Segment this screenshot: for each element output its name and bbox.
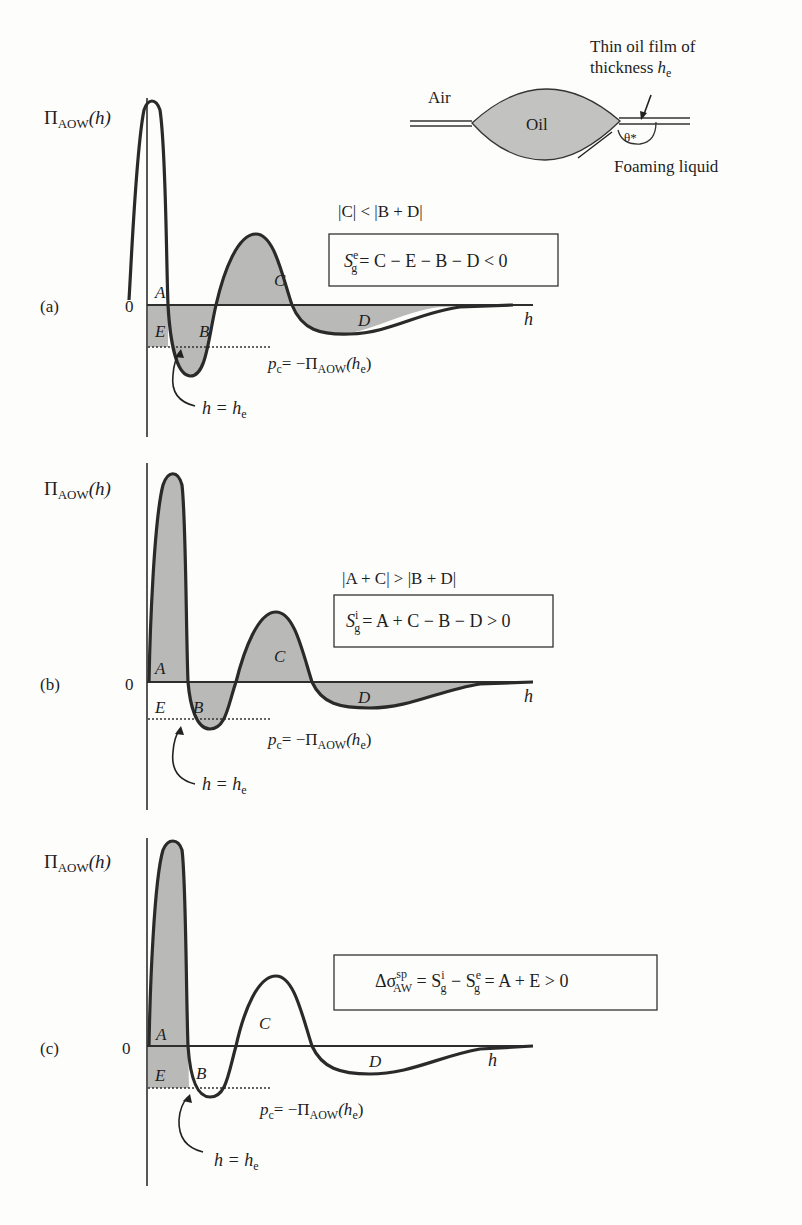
condition-label: |A + C| > |B + D|: [342, 569, 456, 588]
zero-label: 0: [125, 297, 134, 316]
pc-label: pc= −ΠAOW(he): [259, 1100, 363, 1122]
region-D-fill: [312, 682, 533, 708]
pc-label: pc= −ΠAOW(he): [267, 354, 371, 376]
angle-label: θ*: [624, 130, 637, 145]
formula: ΔσspAW = Sig − Seg = A + E > 0: [375, 967, 568, 995]
panel-label: (c): [40, 1039, 59, 1058]
panel-a: (a) 0 ΠAOW(h) h A E B C D |C| < |B + D| …: [40, 98, 558, 437]
panel-label: (a): [40, 297, 59, 316]
background-bleed-text: [0, 20, 802, 21]
oil-lens-inset: Air Oil Thin oil film of thickness he θ*…: [410, 37, 719, 176]
he-label: h = he: [214, 1150, 258, 1173]
region-D-fill: [292, 305, 520, 334]
disjoining-pressure-figure: Air Oil Thin oil film of thickness he θ*…: [0, 0, 802, 1225]
panel-label: (b): [40, 675, 60, 694]
foaming-liquid-label: Foaming liquid: [614, 157, 719, 176]
film-label-line2: thickness he: [590, 58, 671, 80]
region-C-label: C: [274, 271, 286, 290]
he-arrow: [179, 1097, 203, 1152]
region-A-label: A: [154, 283, 166, 302]
he-label: h = he: [202, 398, 246, 421]
region-D-label: D: [368, 1052, 382, 1071]
region-C-label: C: [274, 647, 286, 666]
air-label: Air: [428, 88, 451, 107]
x-axis-label: h: [524, 686, 533, 706]
x-axis-label: h: [488, 1050, 497, 1070]
oil-label: Oil: [526, 115, 548, 134]
y-axis-label: ΠAOW(h): [44, 107, 111, 131]
panel-c: (c) 0 ΠAOW(h) h A E B C D ΔσspAW = Sig −…: [40, 838, 657, 1186]
region-B-label: B: [199, 322, 210, 341]
he-arrow: [173, 729, 195, 784]
region-D-label: D: [357, 688, 371, 707]
region-E-label: E: [154, 698, 166, 717]
region-C-label: C: [259, 1014, 271, 1033]
region-E-label: E: [154, 322, 166, 341]
condition-label: |C| < |B + D|: [338, 202, 423, 221]
y-axis-label: ΠAOW(h): [44, 478, 111, 502]
pc-label: pc= −ΠAOW(he): [267, 730, 371, 752]
region-B-label: B: [193, 698, 204, 717]
region-A-label: A: [154, 659, 166, 678]
zero-label: 0: [125, 675, 134, 694]
region-E-label: E: [154, 1066, 166, 1085]
y-axis-label: ΠAOW(h): [44, 851, 111, 875]
panel-b: (b) 0 ΠAOW(h) h A E B C D |A + C| > |B +…: [40, 463, 553, 810]
x-axis-label: h: [524, 309, 533, 329]
film-label-line1: Thin oil film of: [590, 37, 696, 56]
region-B-label: B: [196, 1064, 207, 1083]
formula: Seg= C − E − B − D < 0: [344, 248, 508, 275]
region-D-label: D: [357, 311, 371, 330]
zero-label: 0: [122, 1039, 131, 1058]
region-A-label: A: [155, 1025, 167, 1044]
formula: Sig= A + C − B − D > 0: [346, 608, 511, 635]
he-label: h = he: [202, 774, 246, 797]
